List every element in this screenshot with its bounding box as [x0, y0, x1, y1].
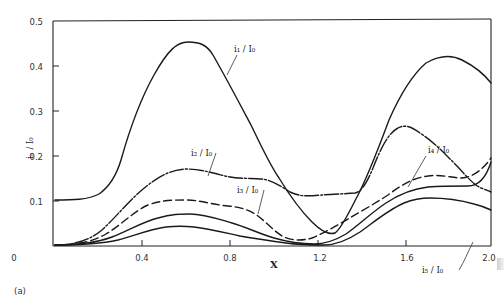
label-i4: i₄ / I₀ [428, 145, 450, 155]
x-axis-title: X [270, 259, 278, 270]
label-i2: i₂ / I₀ [191, 148, 213, 158]
label-i5: i₅ / I₀ [422, 265, 444, 275]
x-tick-label-0: 0 [11, 253, 16, 263]
leader-i4 [408, 156, 426, 187]
top-border [53, 19, 491, 21]
panel-label: (a) [14, 286, 26, 296]
page-edge-shadow [497, 258, 504, 270]
leader-i5-hidden [466, 201, 473, 277]
x-tick-label-0.8: 0.8 [223, 253, 237, 263]
x-tick-label-0.4: 0.4 [135, 253, 149, 263]
label-i1: i₁ / I₀ [234, 44, 256, 54]
x-tick-label-1.2: 1.2 [313, 253, 327, 263]
x-tick-label-1.6: 1.6 [400, 253, 414, 263]
plot-frame [53, 19, 491, 246]
series-i1 [55, 42, 491, 234]
series-i4 [55, 162, 491, 245]
leader-i1 [227, 55, 237, 75]
y-ticks [53, 66, 59, 201]
y-tick-label-0.5: 0.5 [29, 17, 43, 27]
series-i2 [55, 126, 491, 245]
y-tick-label-0.1: 0.1 [29, 197, 43, 207]
y-axis-title: iₙ / I₀ [25, 137, 35, 159]
y-tick-label-0.3: 0.3 [29, 107, 43, 117]
y-tick-label-0.4: 0.4 [29, 62, 43, 72]
x-tick-label-2.0: 2.0 [482, 253, 496, 263]
series-i3 [55, 158, 491, 245]
leader-i3 [258, 190, 264, 214]
chart-canvas: 0.5 0.4 0.3 0.2 0.1 0 0.4 0.8 1.2 1.6 2.… [0, 0, 504, 297]
leader-lines [208, 55, 473, 277]
label-i3: i₃ / I₀ [237, 185, 259, 195]
